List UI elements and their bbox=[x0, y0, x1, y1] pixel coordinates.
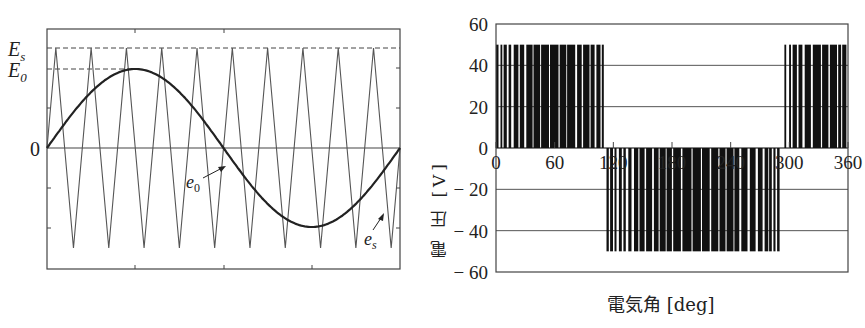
y-tick-label: − 20 bbox=[454, 179, 488, 200]
x-tick-label: 60 bbox=[545, 152, 564, 173]
y-tick-label: − 60 bbox=[454, 262, 488, 283]
x-axis-label: 電気角 [deg] bbox=[607, 290, 714, 316]
x-tick-label: 0 bbox=[491, 152, 501, 173]
x-tick-label: 180 bbox=[658, 152, 687, 173]
y-tick-label: − 40 bbox=[454, 221, 488, 242]
y-tick-label: 0 bbox=[479, 138, 489, 159]
y-tick-label: 40 bbox=[469, 55, 488, 76]
x-tick-label: 240 bbox=[716, 152, 745, 173]
y-tick-label: 20 bbox=[469, 97, 488, 118]
x-tick-label: 120 bbox=[599, 152, 628, 173]
pwm-pulses bbox=[496, 45, 846, 252]
x-tick-label: 300 bbox=[775, 152, 804, 173]
y-axis-label: 電 圧 [V] bbox=[426, 160, 450, 258]
x-tick-label: 360 bbox=[834, 152, 863, 173]
y-tick-label: 60 bbox=[469, 14, 488, 35]
